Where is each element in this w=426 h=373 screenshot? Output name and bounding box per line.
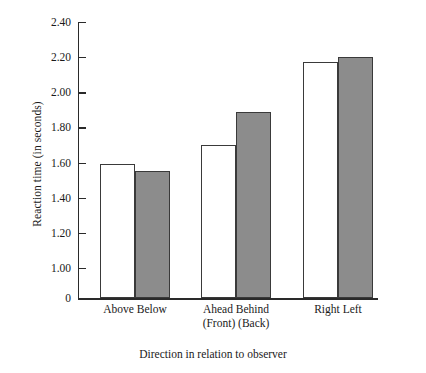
y-tick-label: 1.20: [31, 227, 71, 239]
x-group-label-main: Above Below: [103, 303, 167, 315]
x-group-label-sub: (Front) (Back): [166, 316, 306, 330]
bar-left: [338, 57, 373, 298]
y-tick-label: 2.40: [31, 16, 71, 28]
x-axis-labels: Above BelowAhead Behind(Front) (Back)Rig…: [78, 302, 378, 346]
bar-above: [100, 164, 135, 298]
y-tick-label: 1.60: [31, 157, 71, 169]
y-tick-label: 2.00: [31, 86, 71, 98]
y-tick-label: 1.80: [31, 121, 71, 133]
x-axis-spine: [78, 298, 378, 300]
x-group-label-main: Right Left: [314, 303, 362, 315]
y-tick-label: 1.40: [31, 192, 71, 204]
x-group-label-main: Ahead Behind: [203, 303, 269, 315]
y-tick-label: 2.20: [31, 51, 71, 63]
x-axis-title: Direction in relation to observer: [0, 348, 426, 360]
bar-behind: [236, 112, 271, 298]
y-tick-label: 1.00: [31, 262, 71, 274]
bar-right: [303, 62, 338, 298]
bar-chart-figure: Reaction time (in seconds) 2.402.202.001…: [0, 0, 426, 373]
bar-ahead: [201, 145, 236, 298]
bar-below: [135, 171, 170, 298]
x-group-label-2: Right Left: [268, 302, 408, 316]
bars-layer: [78, 22, 378, 298]
plot-area: 2.402.202.001.801.601.401.201.000 Above …: [78, 22, 378, 299]
